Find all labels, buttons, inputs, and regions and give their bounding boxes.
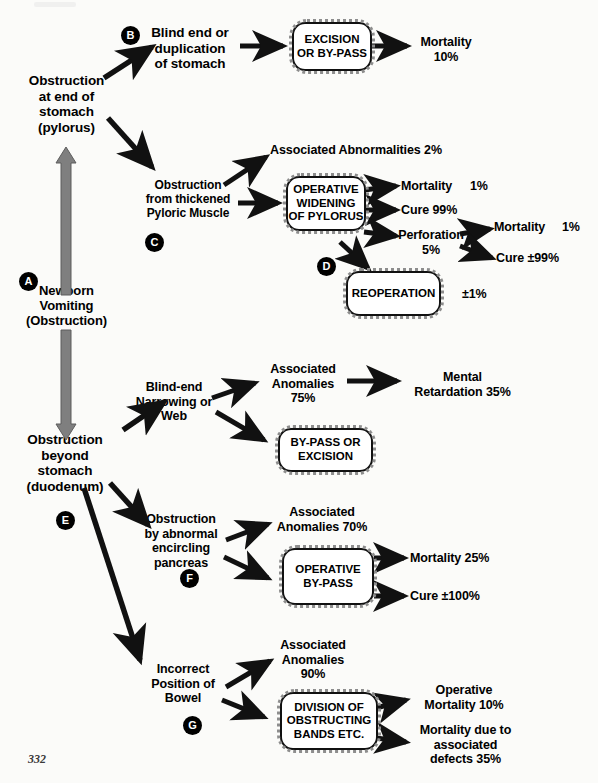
arrow-pancreas-to-opbypass — [224, 557, 268, 578]
spine-arrow-up — [56, 147, 76, 295]
spine-arrow-down — [56, 330, 76, 440]
arrow-bowel-to-division — [222, 700, 264, 717]
arrow-duodenum-to-web — [123, 402, 164, 430]
flowchart-canvas: A B C D E F G Newborn Vomiting (Obstruct… — [0, 0, 598, 783]
arrow-bowel-to-assoc90 — [226, 661, 270, 687]
arrow-perforation-to-mortality — [460, 229, 490, 234]
tag-d[interactable]: D — [317, 257, 336, 276]
box-excision-bypass[interactable]: EXCISION OR BY-PASS — [292, 22, 372, 71]
arrow-division-to-defects — [376, 738, 406, 742]
arrow-layer — [0, 0, 598, 783]
arrow-web-to-assoc75 — [212, 383, 255, 398]
tag-c[interactable]: C — [145, 233, 164, 252]
tag-e[interactable]: E — [56, 511, 75, 530]
arrow-pylorus-to-c — [108, 118, 152, 167]
arrow-widening-to-mortality — [364, 186, 396, 190]
arrow-c-to-assoc2 — [224, 157, 266, 185]
box-reoperation[interactable]: REOPERATION — [346, 271, 441, 316]
arrow-pylorus-to-b — [104, 47, 152, 78]
tag-g[interactable]: G — [183, 716, 202, 735]
arrow-perforation-to-cure — [460, 246, 492, 258]
arrow-pancreas-to-assoc70 — [226, 524, 268, 540]
box-division-bands[interactable]: DIVISION OF OBSTRUCTING BANDS ETC. — [280, 692, 378, 750]
arrow-web-to-bypass — [216, 412, 264, 440]
tag-b[interactable]: B — [121, 26, 140, 45]
arrow-division-to-opmortality — [376, 700, 406, 708]
arrow-widening-to-perforation — [364, 232, 396, 236]
tag-f[interactable]: F — [180, 569, 199, 588]
box-operative-widening[interactable]: OPERATIVE WIDENING OF PYLORUS — [286, 176, 366, 231]
arrow-e-to-pancreas — [110, 483, 148, 525]
arrow-widening-to-reoperation — [340, 242, 368, 268]
tag-a[interactable]: A — [19, 272, 38, 291]
arrow-e-to-bowel — [84, 488, 140, 660]
box-bypass-or-excision[interactable]: BY-PASS OR EXCISION — [278, 428, 373, 472]
box-operative-bypass[interactable]: OPERATIVE BY-PASS — [282, 548, 374, 605]
